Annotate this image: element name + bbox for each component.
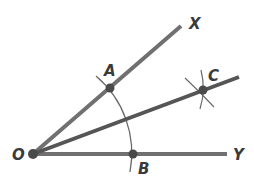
label-c: C xyxy=(208,67,219,85)
label-x: X xyxy=(188,15,202,33)
label-o: O xyxy=(12,146,25,164)
bisector-oc xyxy=(33,77,239,154)
label-a: A xyxy=(103,62,116,80)
bisector-diagram: O A B C X Y xyxy=(0,0,254,188)
label-b: B xyxy=(138,160,149,178)
point-c xyxy=(199,86,208,95)
label-y: Y xyxy=(233,146,246,164)
point-b xyxy=(129,150,138,159)
point-o xyxy=(28,149,38,159)
point-a xyxy=(106,84,115,93)
